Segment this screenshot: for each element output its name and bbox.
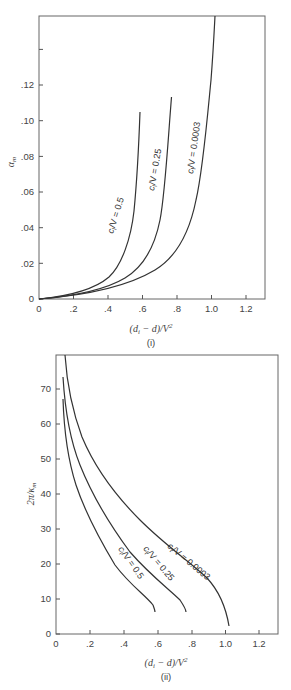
curve-label-0.0003: cl/V = 0.0003 <box>185 121 203 174</box>
y-tick-label: .10 <box>21 115 34 126</box>
x-tick-label: .2 <box>70 303 78 314</box>
curve-cl-v-0.0003 <box>65 355 229 626</box>
figure: 0 .02 .04 .06 .08 .10 .12 0 .2 .4 .6 .8 … <box>0 0 291 690</box>
x-tick-label: 1.0 <box>219 638 232 649</box>
x-tick-label: .2 <box>86 638 94 649</box>
y-tick-label: .06 <box>21 186 34 197</box>
curve-label-0.25: cl/V = 0.25 <box>146 148 164 192</box>
y-axis-title: 2π/κm <box>25 483 38 506</box>
y-tick-label: 60 <box>40 418 51 429</box>
y-axis-ticks <box>56 389 60 634</box>
x-tick-label: .8 <box>173 303 181 314</box>
x-tick-label: .4 <box>104 303 112 314</box>
panel-caption: (ii) <box>161 671 172 682</box>
y-tick-label: .08 <box>21 151 34 162</box>
panel-caption: (i) <box>147 337 155 348</box>
x-tick-label: .4 <box>120 638 128 649</box>
x-tick-label: 1.2 <box>239 303 252 314</box>
x-tick-label: .6 <box>154 638 162 649</box>
y-tick-label: 50 <box>40 453 51 464</box>
y-axis-title: αm <box>5 157 18 167</box>
y-tick-label: 0 <box>29 293 34 304</box>
y-tick-label: 0 <box>46 628 51 639</box>
x-axis-tick-labels: 0 .2 .4 .6 .8 1.0 1.2 <box>53 638 265 649</box>
x-axis-title: (di − d)/V2 <box>130 322 173 336</box>
x-tick-label: 1.2 <box>252 638 265 649</box>
x-tick-label: .6 <box>139 303 147 314</box>
x-axis-ticks <box>90 630 259 634</box>
y-axis-tick-labels: 0 .02 .04 .06 .08 .10 .12 <box>21 79 34 304</box>
x-axis-title: (di − d)/V2 <box>145 656 188 670</box>
x-tick-label: 0 <box>36 303 41 314</box>
curve-label-0.5: cl/V = 0.5 <box>105 196 126 235</box>
x-tick-label: 0 <box>53 638 58 649</box>
y-tick-label: 70 <box>40 383 51 394</box>
chart-panel-i: 0 .02 .04 .06 .08 .10 .12 0 .2 .4 .6 .8 … <box>5 16 265 348</box>
x-axis-tick-labels: 0 .2 .4 .6 .8 1.0 1.2 <box>36 303 252 314</box>
y-tick-label: 20 <box>40 558 51 569</box>
plot-frame <box>56 355 278 634</box>
y-tick-label: .12 <box>21 79 34 90</box>
x-tick-label: 1.0 <box>205 303 218 314</box>
x-tick-label: .8 <box>188 638 196 649</box>
y-axis-tick-labels: 0 10 20 30 40 50 60 70 <box>40 383 51 639</box>
curve-cl-v-0.5 <box>63 399 155 612</box>
y-axis-ticks <box>39 49 43 299</box>
curve-cl-v-0.5 <box>39 112 140 299</box>
y-tick-label: 30 <box>40 523 51 534</box>
y-tick-label: .04 <box>21 222 34 233</box>
curve-cl-v-0.25 <box>39 97 172 299</box>
y-tick-label: .02 <box>21 258 34 269</box>
chart-panel-ii: 0 10 20 30 40 50 60 70 0 .2 .4 .6 .8 1.0… <box>25 355 278 682</box>
x-axis-ticks <box>74 295 247 299</box>
y-tick-label: 40 <box>40 488 51 499</box>
y-tick-label: 10 <box>40 593 51 604</box>
